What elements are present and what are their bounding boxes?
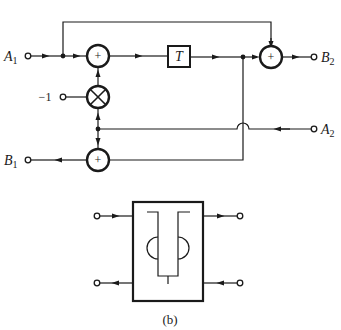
delay-label: T — [175, 49, 184, 64]
symbol-port-bottom-left — [94, 280, 100, 286]
adder-node-3: + — [87, 149, 109, 171]
port-a1: A1 — [3, 49, 31, 66]
symbol-port-bottom-right — [237, 280, 243, 286]
plus-icon: + — [95, 49, 102, 63]
wire-junction2-sum3 — [109, 57, 243, 160]
port-b2-label: B2 — [321, 50, 335, 67]
figure-caption: (b) — [162, 312, 177, 327]
lattice-filter-diagram: A1 + T + B2 −1 — [0, 0, 341, 330]
adder-node-2: + — [260, 46, 282, 68]
port-a2-label: A2 — [320, 122, 335, 139]
multiplier-node — [87, 86, 109, 108]
constant-label: −1 — [39, 90, 52, 104]
plus-icon: + — [95, 153, 102, 167]
port-a2-terminal — [311, 126, 317, 132]
constant-terminal — [60, 94, 66, 100]
port-b1: B1 — [4, 153, 31, 170]
plus-icon: + — [268, 50, 275, 64]
symbol-block — [94, 202, 243, 301]
port-b2-terminal — [311, 54, 317, 60]
port-b2: B2 — [311, 50, 334, 67]
symbol-port-top-right — [237, 213, 243, 219]
symbol-port-top-left — [94, 213, 100, 219]
port-a1-terminal — [25, 53, 31, 59]
port-b1-label: B1 — [4, 153, 18, 170]
symbol-box — [133, 202, 203, 301]
port-a2: A2 — [311, 122, 334, 139]
constant-input: −1 — [39, 90, 66, 104]
port-b1-terminal — [25, 157, 31, 163]
adder-node-1: + — [87, 45, 109, 67]
wire-a2-line — [98, 123, 311, 129]
delay-block: T — [168, 46, 190, 67]
port-a1-label: A1 — [3, 49, 18, 66]
